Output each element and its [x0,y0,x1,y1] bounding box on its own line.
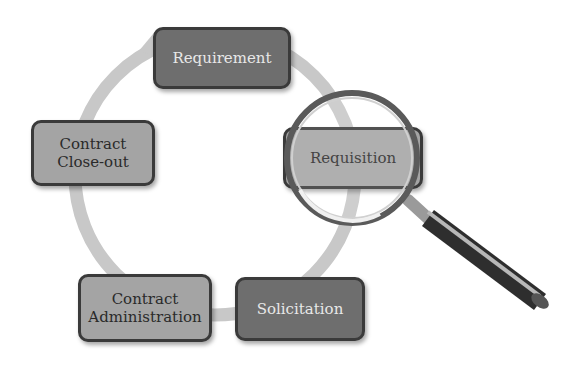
step-contract-administration: Contract Administration [78,274,212,342]
step-label: Contract Close-out [57,135,129,171]
step-label: Solicitation [257,300,344,318]
step-label: Contract Administration [88,290,201,326]
step-solicitation: Solicitation [235,277,365,341]
step-contract-close-out: Contract Close-out [31,120,155,186]
